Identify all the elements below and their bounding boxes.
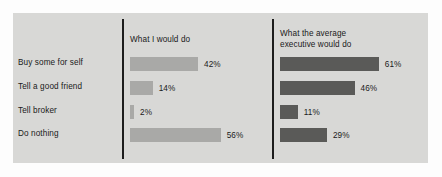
bar-left-3 bbox=[130, 128, 221, 142]
bar-row: 56% bbox=[130, 128, 243, 142]
bar-row: 2% bbox=[130, 105, 152, 119]
chart-panel: Buy some for self Tell a good friend Tel… bbox=[13, 13, 428, 163]
panel-divider-right bbox=[272, 19, 274, 159]
bar-right-1 bbox=[280, 81, 355, 95]
bar-row: 11% bbox=[280, 105, 320, 119]
bar-value-right-2: 11% bbox=[304, 108, 320, 117]
bar-value-right-0: 61% bbox=[385, 60, 402, 69]
chart-screenshot: Buy some for self Tell a good friend Tel… bbox=[0, 0, 442, 177]
bar-row: 61% bbox=[280, 57, 402, 71]
bar-right-3 bbox=[280, 128, 327, 142]
bar-value-right-3: 29% bbox=[333, 131, 350, 140]
category-label-0: Buy some for self bbox=[13, 58, 116, 67]
category-label-3: Do nothing bbox=[13, 129, 116, 138]
bar-left-1 bbox=[130, 81, 153, 95]
category-label-1: Tell a good friend bbox=[13, 82, 116, 91]
bar-row: 29% bbox=[280, 128, 350, 142]
category-label-2: Tell broker bbox=[13, 106, 116, 115]
category-label-column: Buy some for self Tell a good friend Tel… bbox=[13, 13, 116, 163]
bar-left-2 bbox=[130, 105, 134, 119]
bar-value-left-1: 14% bbox=[159, 84, 176, 93]
bar-row: 14% bbox=[130, 81, 175, 95]
bar-value-right-1: 46% bbox=[361, 84, 378, 93]
bar-left-0 bbox=[130, 57, 198, 71]
bar-right-0 bbox=[280, 57, 379, 71]
bar-value-left-3: 56% bbox=[227, 131, 244, 140]
bar-series-average-executive: 61% 46% 11% 29% bbox=[280, 13, 424, 163]
bar-right-2 bbox=[280, 105, 298, 119]
bar-value-left-0: 42% bbox=[204, 60, 221, 69]
bar-value-left-2: 2% bbox=[140, 108, 152, 117]
bar-row: 42% bbox=[130, 57, 221, 71]
bar-series-what-i-would-do: 42% 14% 2% 56% bbox=[130, 13, 268, 163]
bar-row: 46% bbox=[280, 81, 377, 95]
panel-divider-left bbox=[122, 19, 124, 159]
